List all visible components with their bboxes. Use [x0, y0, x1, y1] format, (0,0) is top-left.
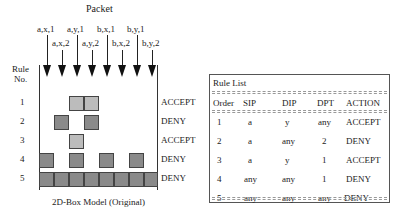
- rule-list-table: Rule List Order SIP DIP DPT ACTION 1 a y…: [209, 74, 390, 203]
- cell-action: DENY: [346, 136, 371, 146]
- cell-sip: a: [248, 117, 252, 127]
- rule-action: DENY: [161, 116, 186, 126]
- cell-sip: any: [244, 193, 257, 203]
- deny-box: [99, 153, 114, 168]
- packet-label-bx1: b,x,1: [97, 24, 115, 34]
- rule-no-label: Rule: [12, 64, 29, 74]
- divider: [212, 93, 387, 94]
- deny-box: [144, 172, 158, 187]
- cell-order: 4: [217, 174, 222, 184]
- deny-box: [54, 115, 69, 130]
- deny-box: [39, 172, 54, 187]
- accept-box: [84, 96, 99, 111]
- rule-number: 4: [20, 154, 25, 164]
- deny-box: [84, 172, 99, 187]
- divider: [212, 199, 387, 200]
- divider: [212, 112, 387, 113]
- accept-box: [69, 96, 84, 111]
- rule-number: 2: [20, 116, 25, 126]
- packet-label: Packet: [86, 4, 113, 14]
- packet-label-by1: b,y,1: [127, 24, 144, 34]
- header-action: ACTION: [346, 98, 380, 108]
- cell-sip: a: [248, 155, 252, 165]
- cell-dpt: 1: [322, 155, 327, 165]
- rule-action: ACCEPT: [161, 97, 196, 107]
- rule-action: DENY: [161, 154, 186, 164]
- cell-action: DENY: [344, 193, 369, 203]
- cell-sip: a: [248, 136, 252, 146]
- deny-box: [69, 172, 84, 187]
- packet-label-ay1: a,y,1: [67, 24, 84, 34]
- deny-box: [129, 172, 144, 187]
- divider: [212, 91, 387, 92]
- header-dip: DIP: [282, 98, 297, 108]
- rule-action: ACCEPT: [161, 135, 196, 145]
- rule-number: 3: [20, 135, 25, 145]
- rule-action: DENY: [161, 173, 186, 183]
- deny-box: [114, 172, 129, 187]
- packet-label-ay2: a,y,2: [82, 38, 99, 48]
- divider: [212, 110, 387, 111]
- deny-box: [84, 115, 99, 130]
- deny-box: [99, 172, 114, 187]
- cell-order: 1: [217, 117, 222, 127]
- cell-dpt: 2: [322, 136, 327, 146]
- packet-label-axy1: a,x,1: [37, 24, 55, 34]
- header-order: Order: [213, 98, 234, 108]
- packet-label-by2: b,y,2: [142, 38, 159, 48]
- header-dpt: DPT: [317, 98, 334, 108]
- cell-dpt: any: [318, 193, 331, 203]
- cell-dip: any: [282, 136, 295, 146]
- rule-number: 1: [20, 97, 25, 107]
- header-sip: SIP: [243, 98, 256, 108]
- cell-dip: y: [285, 155, 290, 165]
- packet-label-ax2: a,x,2: [52, 38, 70, 48]
- cell-dpt: 1: [322, 174, 327, 184]
- cell-dip: any: [282, 193, 295, 203]
- cell-sip: any: [244, 174, 257, 184]
- rule-number: 5: [20, 173, 25, 183]
- rule-list-title: Rule List: [213, 78, 246, 88]
- cell-action: DENY: [346, 174, 371, 184]
- divider: [212, 197, 387, 198]
- cell-order: 2: [217, 136, 222, 146]
- cell-action: ACCEPT: [346, 155, 381, 165]
- accept-box: [69, 134, 84, 149]
- cell-order: 5: [217, 193, 222, 203]
- cell-order: 3: [217, 155, 222, 165]
- deny-box: [69, 153, 84, 168]
- deny-box: [39, 153, 54, 168]
- cell-dpt: any: [318, 117, 331, 127]
- diagram-caption: 2D-Box Model (Original): [52, 197, 145, 207]
- deny-box: [54, 172, 69, 187]
- packet-label-bx2: b,x,2: [112, 38, 130, 48]
- deny-box: [129, 153, 144, 168]
- cell-dip: any: [282, 174, 295, 184]
- cell-dip: y: [285, 117, 290, 127]
- rule-no-label-2: No.: [14, 74, 27, 84]
- cell-action: ACCEPT: [346, 117, 381, 127]
